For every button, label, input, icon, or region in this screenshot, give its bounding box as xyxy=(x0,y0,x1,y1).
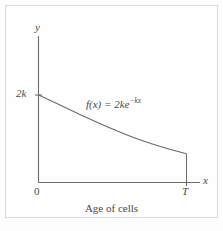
figure-caption: Age of cells xyxy=(0,203,223,214)
x-axis-label: x xyxy=(203,175,208,186)
x-tick-label-origin: 0 xyxy=(34,186,40,197)
x-tick-label-t: T xyxy=(182,186,188,197)
figure-container: y x 2k 0 T f(x) = 2ke−kx Age of cells xyxy=(0,0,223,231)
y-axis-label: y xyxy=(35,22,40,33)
y-tick-label-2k: 2k xyxy=(16,88,26,99)
function-annotation-base: f(x) = 2ke xyxy=(86,98,129,110)
function-annotation: f(x) = 2ke−kx xyxy=(86,99,141,110)
function-annotation-exponent: −kx xyxy=(129,96,141,105)
